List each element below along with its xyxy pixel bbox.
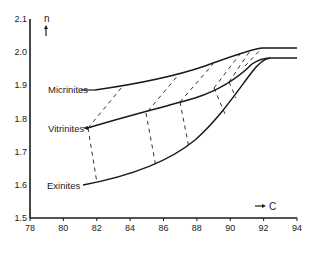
x-tick-label: 84 <box>125 223 135 233</box>
x-tick-label: 88 <box>192 223 202 233</box>
y-tick-labels: 1.51.61.71.81.92.02.1 <box>14 14 27 223</box>
x-tick-label: 92 <box>259 223 269 233</box>
x-axis-label: C <box>269 201 276 212</box>
x-tick-label: 90 <box>225 223 235 233</box>
y-axis-label: n <box>44 13 50 24</box>
y-tick-label: 1.6 <box>14 180 27 190</box>
vitrinites-curve <box>88 58 297 128</box>
refractive-index-chart: 1.51.61.71.81.92.02.1 788082848688909294… <box>0 0 313 254</box>
x-tick-label: 82 <box>92 223 102 233</box>
x-tick-label: 78 <box>25 223 35 233</box>
right-arrowhead-icon <box>262 204 266 208</box>
y-tick-label: 1.9 <box>14 80 27 90</box>
y-tick-label: 1.5 <box>14 213 27 223</box>
tie-lines <box>88 48 262 183</box>
y-tick-label: 2.1 <box>14 14 27 24</box>
x-tick-label: 86 <box>158 223 168 233</box>
x-tick-label: 94 <box>292 223 302 233</box>
x-tick-label: 80 <box>58 223 68 233</box>
vitrinites-label: Vitrinites <box>48 123 85 134</box>
exinites-label: Exinites <box>47 180 81 191</box>
x-tick-labels: 788082848688909294 <box>25 218 302 233</box>
y-tick-label: 1.7 <box>14 147 27 157</box>
y-tick-label: 2.0 <box>14 47 27 57</box>
y-tick-label: 1.8 <box>14 114 27 124</box>
up-arrowhead-icon <box>44 25 48 29</box>
